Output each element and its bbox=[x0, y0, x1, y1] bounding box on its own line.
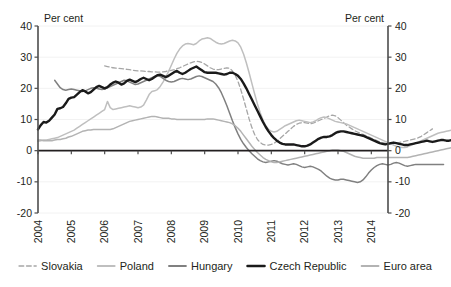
series-line-czech-republic bbox=[38, 67, 451, 147]
x-tick-label: 2011 bbox=[265, 220, 277, 243]
y-tick-label-right: 20 bbox=[395, 82, 407, 94]
legend-label-czech-republic: Czech Republic bbox=[270, 260, 348, 272]
series-line-poland bbox=[38, 38, 451, 148]
x-tick-label: 2010 bbox=[232, 220, 244, 244]
chart-canvas: 404030302020101000-10-10-20-202004200520… bbox=[0, 0, 451, 287]
legend-label-slovakia: Slovakia bbox=[41, 260, 83, 272]
y-tick-label-left: 20 bbox=[20, 82, 32, 94]
y-tick-label-left: 10 bbox=[20, 113, 32, 125]
x-tick-label: 2014 bbox=[365, 220, 377, 244]
legend-label-euro-area: Euro area bbox=[384, 260, 433, 272]
legend-label-poland: Poland bbox=[120, 260, 154, 272]
y-tick-label-right: -20 bbox=[395, 207, 410, 219]
y-tick-label-right: 40 bbox=[395, 20, 407, 32]
x-tick-label: 2006 bbox=[98, 220, 110, 244]
line-chart: 404030302020101000-10-10-20-202004200520… bbox=[0, 0, 451, 287]
y-tick-label-right: 0 bbox=[395, 144, 401, 156]
y-tick-label-left: -20 bbox=[17, 207, 32, 219]
y-tick-label-left: 0 bbox=[26, 144, 32, 156]
series-line-euro-area bbox=[38, 116, 451, 162]
y-tick-label-right: 10 bbox=[395, 113, 407, 125]
unit-label-left: Per cent bbox=[44, 12, 83, 24]
x-tick-label: 2004 bbox=[32, 220, 44, 244]
y-tick-label-left: 40 bbox=[20, 20, 32, 32]
y-tick-label-left: -10 bbox=[17, 175, 32, 187]
x-tick-label: 2009 bbox=[198, 220, 210, 244]
y-tick-label-right: -10 bbox=[395, 175, 410, 187]
x-tick-label: 2007 bbox=[132, 220, 144, 244]
x-tick-label: 2012 bbox=[298, 220, 310, 244]
x-tick-label: 2013 bbox=[332, 220, 344, 244]
x-tick-label: 2005 bbox=[65, 220, 77, 244]
y-tick-label-left: 30 bbox=[20, 51, 32, 63]
unit-label-right: Per cent bbox=[345, 12, 384, 24]
x-tick-label: 2008 bbox=[165, 220, 177, 244]
legend-label-hungary: Hungary bbox=[191, 260, 233, 272]
y-tick-label-right: 30 bbox=[395, 51, 407, 63]
